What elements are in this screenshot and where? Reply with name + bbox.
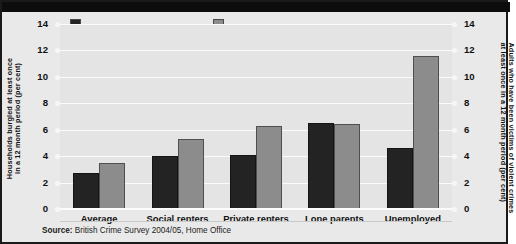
source-text: British Crime Survey 2004/05, Home Offic… <box>75 226 231 235</box>
tick-label-right-4: 4 <box>464 150 480 161</box>
tick-label-left-2: 2 <box>32 177 48 188</box>
tick-label-left-0: 0 <box>32 203 48 214</box>
axis-baseline <box>60 208 452 209</box>
bar-unemployed-victims <box>413 56 439 209</box>
source-divider <box>60 221 452 222</box>
y-axis-title-right-line2: at least once in a 12 month period (per … <box>499 42 507 202</box>
tick-label-right-2: 2 <box>464 177 480 188</box>
tick-dot-right-12 <box>452 48 457 53</box>
source-note: Source: British Crime Survey 2004/05, Ho… <box>42 226 231 235</box>
bar-lone-parents-victims <box>334 124 360 209</box>
tick-dot-right-6 <box>452 128 457 133</box>
bar-private-renters-burglaries <box>230 155 256 209</box>
y-axis-title-right: Adults who have been victims of violent … <box>499 42 516 202</box>
tick-label-right-12: 12 <box>464 44 480 55</box>
gridline-0 <box>60 209 452 210</box>
bar-group-unemployed <box>387 56 439 209</box>
tick-dot-left-14 <box>55 22 60 27</box>
bar-average-burglaries <box>73 173 99 209</box>
tick-dot-right-8 <box>452 101 457 106</box>
tick-dot-right-0 <box>452 207 457 212</box>
bar-private-renters-victims <box>256 126 282 209</box>
bar-social-renters-victims <box>178 139 204 209</box>
tick-dot-right-10 <box>452 75 457 80</box>
plot-area <box>60 24 452 209</box>
bar-unemployed-burglaries <box>387 148 413 209</box>
tick-label-left-4: 4 <box>32 150 48 161</box>
bar-group-lone-parents <box>308 123 360 209</box>
tick-dot-right-2 <box>452 181 457 186</box>
top-black-band <box>2 2 510 12</box>
bar-social-renters-burglaries <box>152 156 178 209</box>
bar-average-victims <box>99 163 125 209</box>
gridline-12 <box>60 50 452 51</box>
tick-dot-left-0 <box>55 207 60 212</box>
tick-dot-left-10 <box>55 75 60 80</box>
y-axis-title-left: Households burgled at least once in a 12… <box>6 43 23 193</box>
gridline-14 <box>60 24 452 25</box>
tick-dot-right-4 <box>452 154 457 159</box>
y-axis-title-left-line2: in a 12 month period (per cent) <box>14 43 22 193</box>
tick-label-right-0: 0 <box>464 203 480 214</box>
tick-label-left-12: 12 <box>32 44 48 55</box>
tick-dot-left-2 <box>55 181 60 186</box>
tick-label-right-10: 10 <box>464 71 480 82</box>
tick-label-left-6: 6 <box>32 124 48 135</box>
tick-label-right-6: 6 <box>464 124 480 135</box>
tick-label-left-14: 14 <box>32 18 48 29</box>
bar-group-private-renters <box>230 126 282 209</box>
bar-lone-parents-burglaries <box>308 123 334 209</box>
tick-dot-right-14 <box>452 22 457 27</box>
bar-group-social-renters <box>152 139 204 209</box>
tick-label-right-14: 14 <box>464 18 480 29</box>
tick-label-right-8: 8 <box>464 97 480 108</box>
bar-group-average <box>73 163 125 209</box>
tick-label-left-10: 10 <box>32 71 48 82</box>
tick-dot-left-6 <box>55 128 60 133</box>
source-label: Source: <box>42 226 72 235</box>
category-label-unemployed: Unemployed <box>367 213 459 224</box>
tick-label-left-8: 8 <box>32 97 48 108</box>
y-axis-title-right-line1: Adults who have been victims of violent … <box>507 42 516 213</box>
